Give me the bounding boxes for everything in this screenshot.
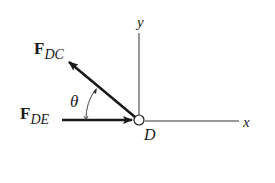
force-de-label: FDE [20,104,50,127]
y-axis-label: y [135,14,144,30]
force-dc-arrow [69,62,135,117]
point-d-label: D [143,126,156,143]
angle-theta-label: θ [70,92,78,111]
force-diagram: y x θ D FDC FDE [0,0,275,183]
force-dc-label: FDC [34,39,65,62]
x-axis-label: x [242,114,250,130]
point-d [134,115,144,125]
angle-arc [86,89,96,120]
